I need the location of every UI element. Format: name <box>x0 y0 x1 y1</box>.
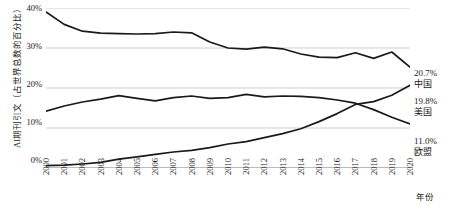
x-tick-2014: 2014 <box>295 158 307 192</box>
y-tick-30: 30% <box>16 42 42 51</box>
x-axis-tick-labels: 2000200120022003200420052006200720082009… <box>46 169 410 219</box>
x-tick-2007: 2007 <box>167 158 179 192</box>
series-label-usa-name: 美国 <box>414 107 437 118</box>
series-label-china-value: 20.7% <box>414 68 437 79</box>
series-line-美国 <box>46 12 410 67</box>
x-tick-2012: 2012 <box>258 158 270 192</box>
x-tick-2019: 2019 <box>386 158 398 192</box>
line-chart-figure: AI期刊引文（占世界总数的百分比） 40% 30% 20% 10% 0% 200… <box>0 0 463 224</box>
x-tick-2004: 2004 <box>113 158 125 192</box>
x-tick-2006: 2006 <box>149 158 161 192</box>
x-tick-2011: 2011 <box>240 158 252 192</box>
series-label-eu-name: 欧盟 <box>414 147 437 158</box>
plot-area <box>46 8 410 168</box>
series-label-eu: 11.0% 欧盟 <box>414 136 437 158</box>
series-lines <box>46 12 410 166</box>
x-tick-2015: 2015 <box>313 158 325 192</box>
y-axis-tick-labels: 40% 30% 20% 10% 0% <box>14 0 42 224</box>
y-tick-10: 10% <box>16 118 42 127</box>
x-tick-2009: 2009 <box>204 158 216 192</box>
x-tick-2008: 2008 <box>186 158 198 192</box>
series-label-usa-value: 19.8% <box>414 96 437 107</box>
x-tick-2000: 2000 <box>40 158 52 192</box>
chart-canvas <box>46 8 410 168</box>
x-tick-2018: 2018 <box>368 158 380 192</box>
y-tick-40: 40% <box>16 4 42 13</box>
x-tick-2010: 2010 <box>222 158 234 192</box>
series-label-usa: 19.8% 美国 <box>414 96 437 118</box>
x-axis-title: 年份 <box>416 192 434 202</box>
y-tick-0: 0% <box>16 156 42 165</box>
x-tick-2002: 2002 <box>76 158 88 192</box>
y-tick-20: 20% <box>16 80 42 89</box>
series-label-eu-value: 11.0% <box>414 136 437 147</box>
x-tick-2003: 2003 <box>95 158 107 192</box>
x-tick-2016: 2016 <box>331 158 343 192</box>
x-tick-2017: 2017 <box>349 158 361 192</box>
x-tick-2005: 2005 <box>131 158 143 192</box>
x-tick-2013: 2013 <box>277 158 289 192</box>
series-line-欧盟 <box>46 94 410 124</box>
x-tick-2020: 2020 <box>404 158 416 192</box>
x-tick-2001: 2001 <box>58 158 70 192</box>
series-label-china: 20.7% 中国 <box>414 68 437 90</box>
series-label-china-name: 中国 <box>414 79 437 90</box>
